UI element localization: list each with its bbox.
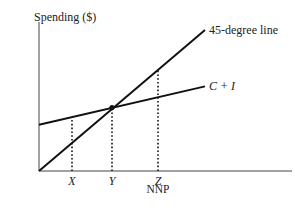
x-tick-label-y: Y bbox=[109, 174, 117, 188]
x-tick-label-x: X bbox=[67, 174, 76, 188]
keynesian-cross-diagram: XYZ 45-degree lineC + I Spending ($) NNP bbox=[0, 0, 295, 213]
series-line-c-i bbox=[39, 86, 205, 124]
series-label-45-degree-line: 45-degree line bbox=[209, 23, 278, 37]
series-line-45-degree-line bbox=[39, 30, 205, 171]
series-label-c-i: C + I bbox=[209, 79, 236, 93]
y-axis-label: Spending ($) bbox=[34, 10, 96, 24]
x-axis-label: NNP bbox=[146, 183, 169, 195]
equilibrium-point bbox=[109, 105, 114, 110]
